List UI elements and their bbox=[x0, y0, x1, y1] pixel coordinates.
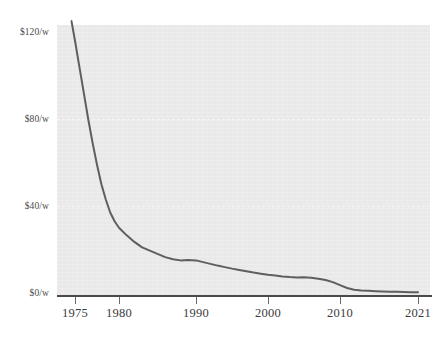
plot-area bbox=[57, 25, 430, 296]
x-axis-tick-label: 1980 bbox=[106, 306, 132, 321]
y-axis-tick-label: $120/w bbox=[20, 27, 49, 37]
y-axis-tick-label: $80/w bbox=[25, 114, 49, 124]
chart-page: $120/w$80/w$40/w$0/w 1975198019902000201… bbox=[0, 0, 440, 345]
x-axis-tick-label: 2010 bbox=[327, 306, 353, 321]
x-axis-tick-label: 1990 bbox=[183, 306, 209, 321]
y-axis-tick-label-group: $120/w$80/w$40/w$0/w bbox=[0, 0, 53, 345]
x-axis-tick-label: 1975 bbox=[62, 306, 88, 321]
x-axis-tick-mark bbox=[196, 297, 197, 304]
x-axis-tick-label: 2000 bbox=[255, 306, 281, 321]
x-axis-tick-mark bbox=[340, 297, 341, 304]
x-axis-tick-label: 2021 bbox=[405, 306, 431, 321]
line-series-path bbox=[71, 21, 418, 292]
line-series-group bbox=[57, 25, 430, 296]
y-axis-tick-label: $40/w bbox=[25, 201, 49, 211]
y-axis-tick-label: $0/w bbox=[30, 288, 49, 298]
x-axis-line bbox=[57, 295, 432, 297]
x-axis-tick-mark bbox=[75, 297, 76, 304]
x-axis-tick-mark bbox=[119, 297, 120, 304]
x-axis-tick-mark bbox=[418, 297, 419, 304]
x-axis-tick-mark bbox=[268, 297, 269, 304]
